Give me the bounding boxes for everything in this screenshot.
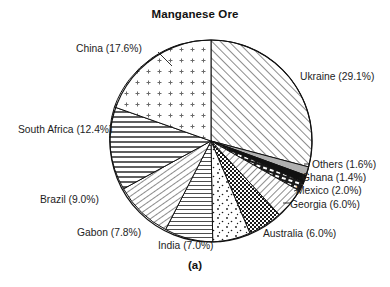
pie-label-ukraine: Ukraine (29.1%) [300,71,374,83]
pie-label-south-africa: South Africa (12.4%) [18,124,112,136]
pie-slices [110,40,312,242]
pie-label-brazil: Brazil (9.0%) [40,194,99,206]
pie-label-gabon: Gabon (7.8%) [77,227,141,239]
pie-label-georgia: Georgia (6.0%) [290,199,360,211]
figure-caption: (a) [0,259,390,271]
pie-label-mexico: Mexico (2.0%) [296,185,362,197]
pie-label-india: India (7.0%) [158,240,214,252]
pie-label-china: China (17.6%) [76,43,142,55]
pie-label-others: Others (1.6%) [312,159,376,171]
pie-label-ghana: Ghana (1.4%) [302,172,366,184]
figure-container: Manganese Ore [0,0,390,287]
pie-label-australia: Australia (6.0%) [263,228,336,240]
